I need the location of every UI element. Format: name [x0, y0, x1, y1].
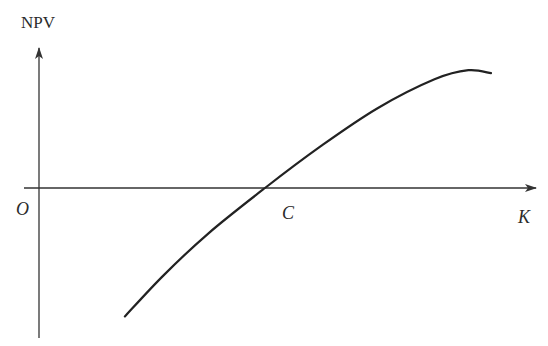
annotation-c-label: C [282, 203, 295, 223]
npv-chart: NPV O C K [0, 0, 548, 346]
x-axis-label: K [517, 207, 531, 227]
y-axis-label: NPV [21, 13, 56, 32]
npv-curve-series-0 [125, 70, 491, 316]
origin-label: O [16, 199, 29, 219]
series-layer [125, 70, 491, 316]
